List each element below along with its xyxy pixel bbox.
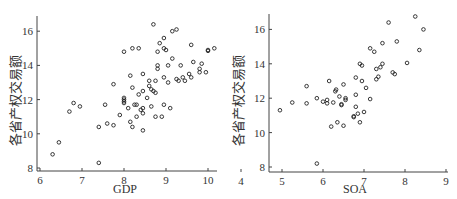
y-axis-label: 各省产权交易额	[231, 55, 246, 146]
svg-text:9: 9	[163, 174, 169, 186]
svg-text:16: 16	[254, 23, 266, 35]
x-axis-label: GDP	[113, 182, 137, 196]
svg-text:8: 8	[260, 161, 266, 173]
svg-text:5: 5	[279, 175, 285, 187]
gdp-scatter-chart: 810121416 678910 GDP 各省产权交易额	[0, 0, 228, 199]
svg-text:10: 10	[203, 174, 215, 186]
svg-text:6: 6	[37, 174, 43, 186]
data-points	[51, 23, 216, 165]
svg-text:12: 12	[254, 92, 265, 104]
svg-text:14: 14	[22, 59, 34, 71]
y-axis-label: 各省产权交易额	[8, 55, 23, 146]
svg-text:7: 7	[79, 174, 85, 186]
svg-text:6: 6	[320, 175, 326, 187]
svg-text:10: 10	[22, 128, 34, 140]
y-axis: 810121416	[22, 16, 40, 174]
svg-text:8: 8	[402, 175, 408, 187]
svg-text:12: 12	[22, 94, 33, 106]
y-axis: 810121416	[254, 14, 272, 173]
x-axis-label: SOA	[343, 182, 367, 196]
svg-text:16: 16	[22, 25, 34, 37]
svg-text:9: 9	[443, 175, 449, 187]
data-points	[278, 15, 425, 166]
svg-text:14: 14	[254, 58, 266, 70]
soa-scatter-chart: 810121416 456789 SOA 各省产权交易额	[228, 0, 457, 199]
svg-text:8: 8	[28, 162, 34, 174]
svg-text:4: 4	[238, 175, 244, 187]
svg-text:10: 10	[254, 127, 266, 139]
